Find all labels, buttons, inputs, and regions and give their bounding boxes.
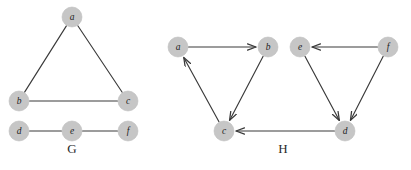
graph-g-node-d: d: [9, 121, 29, 141]
node-circle-c: [214, 121, 234, 141]
graph-g-node-b: b: [9, 91, 29, 111]
node-circle-b: [9, 91, 29, 111]
graph-h-node-b: b: [258, 37, 278, 57]
nodes-layer: abcdefabcefd: [9, 7, 398, 141]
graph-caption-g: G: [67, 141, 76, 156]
node-circle-f: [118, 121, 138, 141]
node-circle-a: [62, 7, 82, 27]
node-circle-d: [335, 121, 355, 141]
captions-layer: GH: [67, 141, 287, 156]
graph-h-node-f: f: [378, 37, 398, 57]
node-circle-d: [9, 121, 29, 141]
graph-h-node-c: c: [214, 121, 234, 141]
graph-h-node-a: a: [168, 37, 188, 57]
node-circle-b: [258, 37, 278, 57]
graph-h-arc-b-c: [230, 56, 263, 120]
graph-caption-h: H: [278, 141, 287, 156]
graph-g-edge-a-b: [25, 26, 67, 92]
graph-figure: abcdefabcefd GH: [0, 0, 411, 170]
graph-h-node-d: d: [335, 121, 355, 141]
node-circle-a: [168, 37, 188, 57]
graph-g-node-c: c: [118, 91, 138, 111]
graph-h-node-e: e: [290, 37, 310, 57]
graph-h-arc-e-d: [305, 56, 339, 120]
graph-canvas: abcdefabcefd GH: [0, 0, 411, 170]
graph-g-node-e: e: [62, 121, 82, 141]
graph-h-arc-f-d: [351, 56, 384, 120]
graph-g-node-a: a: [62, 7, 82, 27]
graph-g-edge-a-c: [78, 26, 122, 93]
graph-g-node-f: f: [118, 121, 138, 141]
node-circle-c: [118, 91, 138, 111]
node-circle-e: [290, 37, 310, 57]
edges-layer: [25, 26, 384, 131]
node-circle-e: [62, 121, 82, 141]
node-circle-f: [378, 37, 398, 57]
graph-h-arc-c-a: [184, 58, 219, 122]
